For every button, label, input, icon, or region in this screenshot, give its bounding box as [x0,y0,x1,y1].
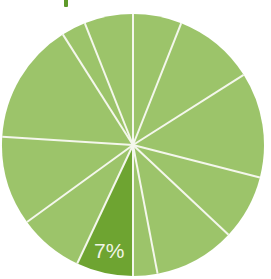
pie-chart: 7% [0,0,271,279]
highlight-slice-label: 7% [94,239,124,262]
